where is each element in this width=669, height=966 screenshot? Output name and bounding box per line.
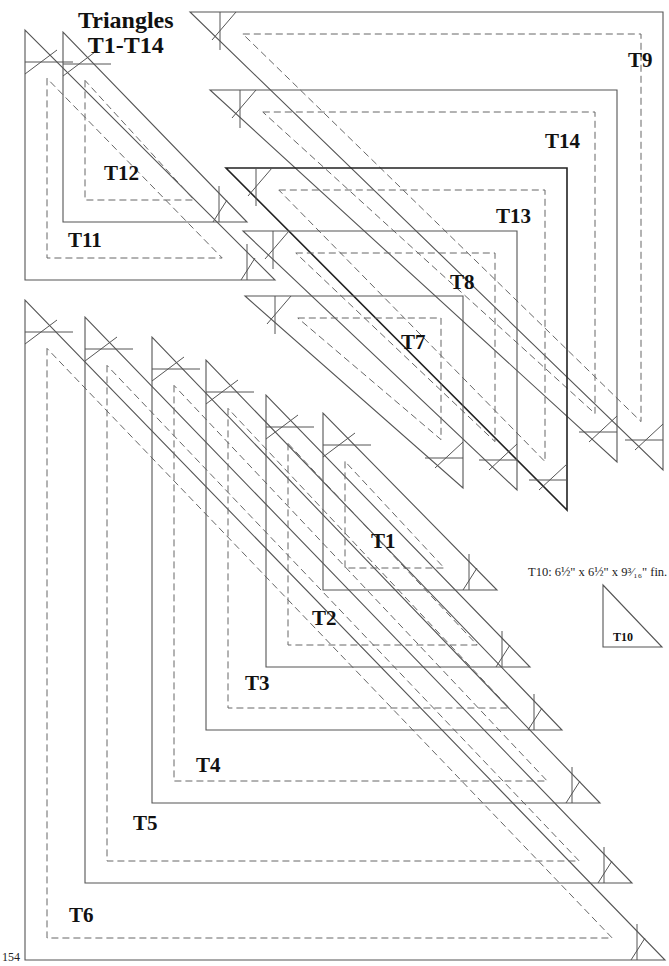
title-line-1: Triangles (78, 8, 174, 33)
label-t10: T10 (613, 630, 633, 645)
label-t9: T9 (628, 50, 653, 71)
label-t2: T2 (312, 608, 337, 629)
triangle-t12 (63, 32, 247, 222)
triangle-t2 (266, 395, 530, 667)
label-t1: T1 (371, 531, 396, 552)
t10-dimensions-note: T10: 6½" x 6½" x 9³⁄₁₆" fin. (528, 565, 667, 580)
top-right-triangles (190, 12, 663, 510)
triangle-t7 (245, 296, 463, 488)
label-t14: T14 (545, 131, 580, 152)
page-number: 154 (2, 950, 20, 965)
label-t7: T7 (401, 332, 426, 353)
triangle-t8 (243, 231, 517, 490)
triangle-t9 (190, 12, 663, 470)
label-t4: T4 (196, 755, 221, 776)
label-t3: T3 (245, 673, 270, 694)
label-t8: T8 (450, 272, 475, 293)
triangle-t5 (85, 317, 632, 883)
label-t6: T6 (69, 905, 94, 926)
page-title: Triangles T1-T14 (78, 8, 174, 58)
label-t11: T11 (68, 230, 102, 251)
label-t12: T12 (104, 163, 139, 184)
triangle-t1 (323, 413, 497, 590)
label-t5: T5 (133, 813, 158, 834)
title-line-2: T1-T14 (78, 33, 174, 58)
label-t13: T13 (496, 206, 531, 227)
